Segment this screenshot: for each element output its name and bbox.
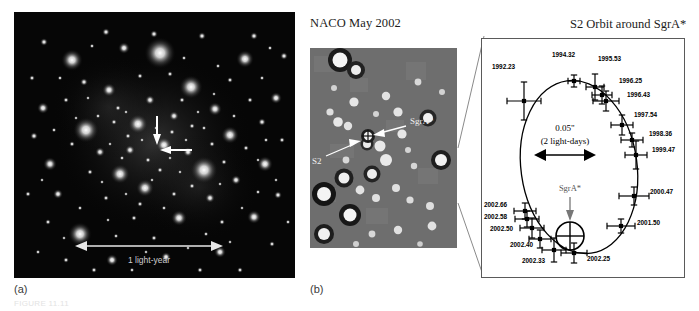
panel-a-label: (a) <box>14 283 27 295</box>
epoch-label: 1992.23 <box>492 63 516 70</box>
s2-position-marker <box>538 237 542 241</box>
s2-position-marker <box>552 248 556 252</box>
orbit-svg: SgrA* 0.05" (2 light-days) 1992.231994.3… <box>482 39 684 277</box>
epoch-label: 2002.66 <box>484 201 508 208</box>
epoch-label: 2002.25 <box>587 255 611 262</box>
sgra-focus-marker <box>556 222 584 250</box>
s2-position-marker <box>572 79 576 83</box>
panel-b-naco-image: SgrA* S2 <box>310 48 457 248</box>
epoch-label: 1995.53 <box>598 55 622 62</box>
sgra-center-label: SgrA* <box>559 183 581 193</box>
s2-position-marker <box>530 226 534 230</box>
s2-position-marker <box>522 99 526 103</box>
epoch-label: 2002.50 <box>490 225 514 232</box>
epoch-label: 1999.47 <box>652 146 676 153</box>
figure-container: 1 light-year (a) NACO May 2002 <box>0 0 699 311</box>
star-field-svg: 1 light-year <box>14 12 295 278</box>
s2-position-marker <box>619 224 623 228</box>
s2-position-marker <box>634 153 638 157</box>
s2-label: S2 <box>312 156 322 166</box>
epoch-label: 2000.47 <box>650 188 674 195</box>
sgra-label: SgrA* <box>410 116 434 126</box>
epoch-label: 1996.25 <box>619 77 643 84</box>
scale-bar-label: 1 light-year <box>128 255 170 265</box>
naco-epoch-title: NACO May 2002 <box>310 16 401 31</box>
epoch-label: 1998.36 <box>649 130 673 137</box>
epoch-label: 2001.50 <box>637 219 661 226</box>
s2-position-marker <box>604 99 608 103</box>
panel-a-star-field-image: 1 light-year <box>14 12 295 278</box>
panel-b-label: (b) <box>310 283 323 295</box>
s2-position-marker <box>620 123 624 127</box>
epoch-label: 1996.43 <box>627 91 651 98</box>
orbit-diagram-panel: SgrA* 0.05" (2 light-days) 1992.231994.3… <box>481 38 685 278</box>
s2-position-marker <box>523 209 527 213</box>
orbit-scale-secondary-label: (2 light-days) <box>541 136 590 146</box>
s2-position-marker <box>632 194 636 198</box>
epoch-label: 2002.40 <box>510 241 534 248</box>
naco-svg: SgrA* S2 <box>310 48 457 248</box>
orbit-panel-title: S2 Orbit around SgrA* <box>570 17 686 32</box>
s2-position-marker <box>600 93 604 97</box>
s2-position-marker <box>593 85 597 89</box>
figure-caption: FIGURE 11.11 <box>14 299 69 308</box>
orbit-scale-primary-label: 0.05" <box>555 123 575 133</box>
epoch-label: 1994.32 <box>552 51 576 58</box>
epoch-label: 1997.54 <box>634 111 658 118</box>
s2-position-marker <box>572 251 576 255</box>
epoch-label: 2002.33 <box>522 257 546 264</box>
epoch-label: 2002.58 <box>484 213 508 220</box>
